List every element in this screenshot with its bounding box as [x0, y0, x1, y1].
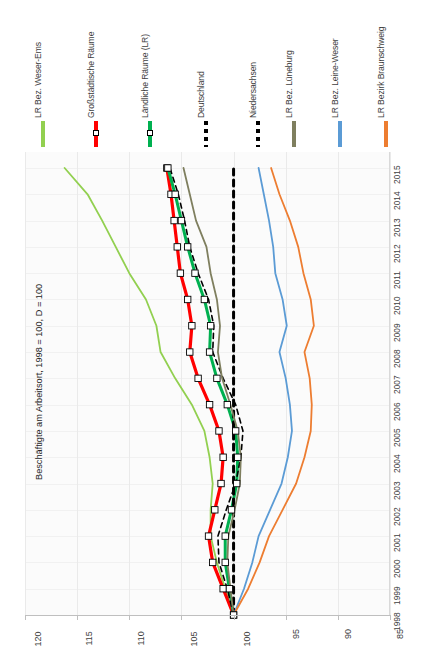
year-axis-label: 2007: [392, 376, 402, 395]
value-axis-tick: [286, 615, 287, 620]
series-marker: [220, 454, 226, 460]
legend-swatch: [292, 121, 295, 147]
series-line-6: [234, 168, 292, 615]
legend-marker: [147, 130, 153, 136]
year-axis-label: 2004: [392, 455, 402, 474]
year-axis-label: 2001: [392, 533, 402, 552]
series-marker: [216, 428, 222, 434]
series-marker: [224, 401, 230, 407]
series-marker: [201, 296, 207, 302]
year-axis-label: 2014: [392, 192, 402, 211]
legend-label: LR Bez. Weser-Ems: [33, 42, 43, 118]
series-marker: [171, 217, 177, 223]
year-axis-label: 2012: [392, 244, 402, 263]
value-axis-tick: [390, 615, 391, 620]
value-axis-tick: [338, 615, 339, 620]
chart-legend: LR Bez. Weser-EmsGroßstädtische RäumeLän…: [0, 0, 423, 150]
plot-area: [25, 152, 390, 615]
value-axis-line: [25, 615, 390, 616]
legend-item-0[interactable]: LR Bez. Weser-Ems: [17, 0, 69, 150]
value-axis-tick: [181, 615, 182, 620]
legend-swatch: [204, 121, 208, 147]
value-axis-tick: [234, 615, 235, 620]
value-axis-label: 120: [33, 632, 43, 647]
legend-item-5[interactable]: LR Bez. Lüneburg: [268, 0, 320, 150]
legend-item-7[interactable]: LR Bezirk Braunschweig: [360, 0, 412, 150]
series-marker: [228, 507, 234, 513]
value-axis-tick: [77, 615, 78, 620]
legend-label: LR Bezirk Braunschweig: [376, 27, 386, 118]
series-marker: [212, 507, 218, 513]
year-axis-label: 2011: [392, 271, 402, 289]
year-axis-label: 2006: [392, 402, 402, 421]
legend-label: Niedersachsen: [248, 62, 258, 118]
year-axis-label: 2000: [392, 560, 402, 579]
series-marker: [172, 191, 178, 197]
year-axis-label: 2003: [392, 481, 402, 500]
series-marker: [184, 244, 190, 250]
legend-swatch: [256, 121, 260, 147]
series-marker: [205, 533, 211, 539]
legend-swatch: [384, 121, 387, 147]
series-marker: [218, 480, 224, 486]
series-line-7: [234, 168, 314, 615]
series-marker: [184, 296, 190, 302]
series-marker: [210, 559, 216, 565]
series-marker: [178, 217, 184, 223]
year-axis-label: 2013: [392, 218, 402, 237]
series-marker: [220, 586, 226, 592]
axis-title: Beschäftigte am Arbeitsort, 1998 = 100, …: [34, 284, 44, 480]
legend-marker: [93, 130, 99, 136]
value-axis-tick: [25, 615, 26, 620]
year-axis-label: 1998: [392, 612, 402, 631]
series-marker: [226, 586, 232, 592]
legend-item-3[interactable]: Deutschland: [180, 0, 232, 150]
series-line-0: [65, 168, 234, 615]
series-marker: [206, 401, 212, 407]
value-axis-label: 95: [291, 629, 301, 639]
series-marker: [177, 270, 183, 276]
series-marker: [207, 323, 213, 329]
series-marker: [187, 349, 193, 355]
series-marker: [214, 375, 220, 381]
series-marker: [232, 428, 238, 434]
series-marker: [235, 454, 241, 460]
series-marker: [195, 375, 201, 381]
value-axis-label: 100: [241, 632, 251, 647]
chart-root: LR Bez. Weser-EmsGroßstädtische RäumeLän…: [0, 0, 423, 671]
value-axis-label: 90: [343, 629, 353, 639]
series-line-3: [170, 168, 243, 615]
series-marker: [189, 323, 195, 329]
legend-item-6[interactable]: LR Bez. Leine-Weser: [314, 0, 366, 150]
year-axis-label: 2015: [392, 165, 402, 184]
value-axis-label: 115: [84, 631, 94, 645]
legend-item-2[interactable]: Ländliche Räume (LR): [124, 0, 176, 150]
series-marker: [222, 559, 228, 565]
year-axis-label: 2010: [392, 297, 402, 316]
year-axis-label: 2002: [392, 507, 402, 526]
year-axis-label: 2009: [392, 323, 402, 342]
gridline-vertical: [390, 152, 391, 615]
legend-item-1[interactable]: Großstädtische Räume: [70, 0, 122, 150]
series-marker: [234, 480, 240, 486]
legend-label: LR Bez. Lüneburg: [284, 50, 294, 118]
year-axis-label: 1999: [392, 586, 402, 605]
year-axis-label: 2008: [392, 349, 402, 368]
value-axis-label: 110: [136, 631, 146, 645]
series-marker: [192, 270, 198, 276]
series-marker: [222, 533, 228, 539]
legend-label: Ländliche Räume (LR): [140, 34, 150, 118]
series-marker: [174, 244, 180, 250]
year-axis-label: 2005: [392, 428, 402, 447]
value-axis-label: 105: [189, 632, 199, 647]
legend-swatch: [338, 121, 341, 147]
legend-label: LR Bez. Leine-Weser: [330, 38, 340, 118]
value-axis-tick: [129, 615, 130, 620]
legend-swatch: [41, 121, 44, 147]
legend-label: Großstädtische Räume: [86, 32, 96, 118]
series-lines: [25, 152, 390, 615]
series-marker: [206, 349, 212, 355]
series-marker: [165, 165, 171, 171]
legend-label: Deutschland: [196, 71, 206, 118]
